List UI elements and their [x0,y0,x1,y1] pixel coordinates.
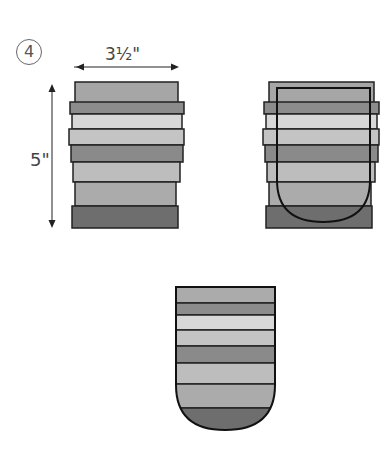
cut-pocket [176,287,275,432]
pocket-construction-diagram [0,0,391,474]
width-dimension-label: 3½" [105,44,140,64]
strip-set-with-template [263,82,379,228]
strip-set [69,82,184,228]
step-number-badge: 4 [16,39,42,65]
height-dimension-label: 5" [30,149,50,170]
